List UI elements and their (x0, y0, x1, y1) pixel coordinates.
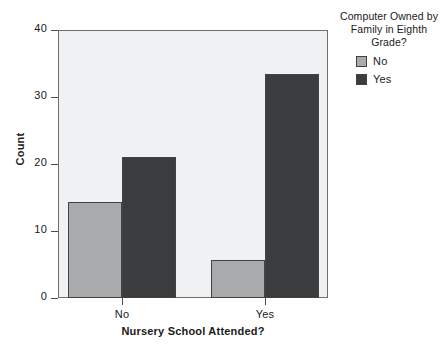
legend-title-line-2: Family in Eighth (336, 23, 442, 36)
x-axis-tick-mark (265, 298, 266, 305)
legend-label-no: No (373, 55, 387, 67)
y-axis-tick-mark (51, 298, 58, 299)
legend-entry-yes: Yes (336, 73, 442, 85)
y-axis-tick-label: 10 (34, 223, 47, 235)
y-axis-tick-label: 30 (34, 89, 47, 101)
grouped-bar-chart: 40 30 20 10 0 Count No Yes Nursery Schoo… (0, 0, 444, 350)
legend-title-line-3: Grade? (336, 36, 442, 49)
legend: Computer Owned by Family in Eighth Grade… (336, 10, 442, 85)
legend-label-yes: Yes (373, 73, 392, 85)
legend-swatch-yes-icon (356, 74, 367, 85)
x-axis-tick-mark (122, 298, 123, 305)
y-axis-tick-label: 0 (41, 290, 47, 302)
x-axis-tick-label: No (82, 308, 162, 320)
legend-swatch-no-icon (356, 56, 367, 67)
y-axis-title: Count (14, 109, 26, 189)
y-axis-tick-mark (51, 231, 58, 232)
x-axis-title: Nursery School Attended? (58, 325, 328, 337)
y-axis-tick-mark (51, 30, 58, 31)
y-axis-tick-label: 20 (34, 156, 47, 168)
legend-entry-no: No (336, 55, 442, 67)
legend-title: Computer Owned by Family in Eighth Grade… (336, 10, 442, 49)
bar-no-group-yes-computer (122, 157, 176, 298)
legend-title-line-1: Computer Owned by (336, 10, 442, 23)
y-axis-tick-label: 40 (34, 22, 47, 34)
bar-no-group-no-computer (68, 202, 122, 298)
bar-yes-group-no-computer (211, 260, 265, 298)
bar-yes-group-yes-computer (265, 74, 319, 298)
y-axis-tick-mark (51, 164, 58, 165)
x-axis-tick-label: Yes (225, 308, 305, 320)
y-axis-tick-mark (51, 97, 58, 98)
